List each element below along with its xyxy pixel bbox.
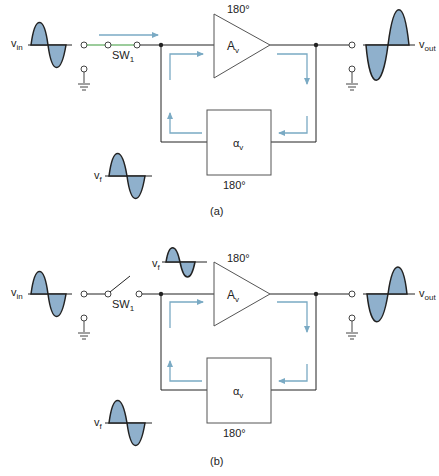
output-terminal-b: [349, 291, 355, 297]
vout-label-b: vout: [419, 288, 436, 299]
vf-label-b: vf: [94, 417, 102, 428]
ground-icon: [78, 321, 90, 339]
vf-label-a: vf: [94, 170, 102, 181]
ground-icon: [78, 72, 90, 90]
amp-gain-b: Av: [227, 289, 239, 301]
open-switch-blade: [110, 276, 130, 292]
vf-waveform-a: [105, 154, 152, 199]
vin-waveform-b: [28, 272, 72, 317]
vin-waveform-a: [28, 23, 72, 68]
vout-label-a: vout: [419, 39, 436, 50]
input-terminal-a: [81, 42, 87, 48]
switch-label-a: SW1: [112, 50, 134, 61]
vin-label-a: vin: [11, 38, 23, 49]
fb-phase-a: 180°: [223, 180, 246, 191]
diagram-a: [28, 10, 415, 199]
switch-contact-a2: [134, 42, 140, 48]
vf-top-label-b: vf: [152, 258, 160, 269]
amp-phase-b: 180°: [227, 253, 250, 264]
caption-a: (a): [210, 205, 223, 217]
ground-icon: [346, 72, 358, 90]
ground-icon: [346, 321, 358, 339]
vf-top-waveform-b: [162, 248, 207, 277]
diagram-b: [28, 248, 415, 446]
fb-label-a: αv: [233, 138, 243, 149]
caption-b: (b): [210, 455, 223, 467]
vin-label-b: vin: [11, 287, 23, 298]
switch-contact-a1: [105, 42, 111, 48]
switch-label-b: SW1: [112, 299, 134, 310]
ground-terminal-a: [81, 66, 87, 72]
amp-phase-a: 180°: [227, 4, 250, 15]
input-terminal-b: [81, 291, 87, 297]
amplifier-a: [214, 14, 270, 78]
fb-label-b: αv: [233, 386, 243, 397]
amp-gain-a: Av: [227, 40, 239, 52]
switch-contact-b2: [136, 291, 142, 297]
fb-phase-b: 180°: [223, 428, 246, 439]
output-terminal-a: [349, 42, 355, 48]
vf-waveform-b: [105, 401, 152, 446]
amplifier-b: [214, 262, 270, 326]
oscillator-feedback-diagram: [0, 0, 439, 476]
vout-waveform-b: [363, 267, 415, 322]
vout-waveform-a: [363, 10, 415, 81]
